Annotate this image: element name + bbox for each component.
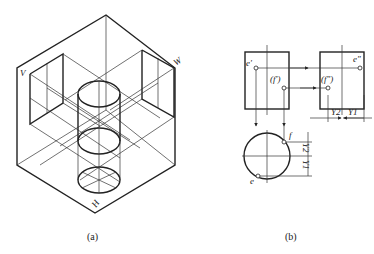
plane-label-h: H: [89, 198, 102, 210]
figure-a-isometric: V W H (a): [17, 15, 185, 243]
label-f-front: (f'): [270, 74, 280, 84]
caption-b: (b): [285, 231, 297, 243]
plane-label-v: V: [20, 68, 27, 78]
label-e-side: e": [353, 54, 361, 64]
figure-b-orthographic: e' (f') e" (f") Y2 Y1 f e Y2 Y1 (b): [242, 45, 372, 243]
label-e-top: e: [250, 176, 254, 186]
dim-y1-side: Y1: [348, 107, 358, 117]
v-plane-projection: [30, 54, 160, 182]
label-e-front: e': [246, 58, 253, 68]
cylinder: [78, 81, 120, 193]
caption-a: (a): [87, 231, 98, 243]
label-f-side: (f"): [321, 74, 333, 84]
dim-y2-top: Y2: [301, 143, 311, 153]
w-plane-projection: [40, 50, 174, 180]
dim-y2-side: Y2: [331, 107, 341, 117]
label-f-top: f: [289, 130, 293, 140]
dim-y1-top: Y1: [301, 160, 311, 170]
cube-outline: [17, 15, 175, 213]
diagram-canvas: V W H (a) e' (f') e" (f") Y2: [0, 0, 374, 254]
plane-label-w: W: [171, 54, 184, 67]
